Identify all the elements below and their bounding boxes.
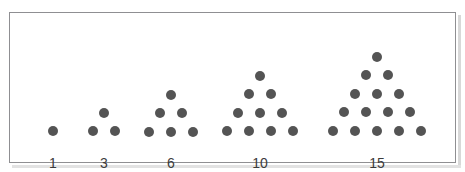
dot [244,126,254,136]
dot [328,126,338,136]
triangle-count-label: 3 [100,156,108,170]
dot-pattern-field: 1361015 [10,13,457,164]
dot [166,127,176,137]
dot [288,126,298,136]
triangle-count-label: 6 [167,156,175,170]
figure-border-box: 1361015 [9,12,456,163]
dot [222,126,232,136]
dot [350,89,360,99]
dot [372,52,382,62]
dot [48,126,58,136]
dot [361,70,371,80]
frame-shadow-right [458,15,461,166]
dot [394,89,404,99]
dot [405,107,415,117]
dot [361,107,371,117]
dot [177,108,187,118]
dot [339,107,349,117]
dot [110,126,120,136]
triangle-count-label: 10 [252,156,268,170]
dot [255,71,265,81]
dot [244,89,254,99]
dot [155,108,165,118]
dot [372,126,382,136]
dot [383,70,393,80]
dot [383,107,393,117]
dot [88,126,98,136]
dot [350,126,360,136]
dot [372,89,382,99]
dot [394,126,404,136]
dot [255,108,265,118]
triangle-count-label: 15 [369,156,385,170]
dot [233,108,243,118]
triangle-count-label: 1 [49,156,57,170]
frame-shadow-bottom [12,165,461,168]
dot [144,127,154,137]
figure-stage: 1361015 [0,0,465,172]
dot [266,126,276,136]
dot [266,89,276,99]
dot [416,126,426,136]
dot [277,108,287,118]
dot [166,90,176,100]
dot [99,108,109,118]
dot [188,127,198,137]
